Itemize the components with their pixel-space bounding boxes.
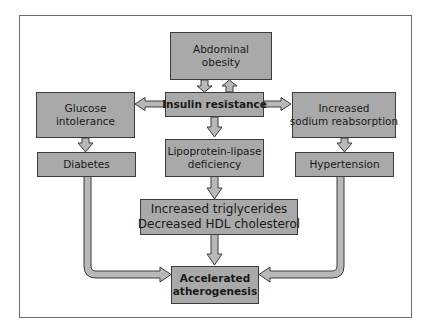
node-label: Glucose <box>65 102 107 115</box>
node-lipids: Increased triglycerides Decreased HDL ch… <box>140 199 298 235</box>
node-insulin-resistance: Insulin resistance <box>165 92 264 117</box>
node-label: Accelerated <box>180 272 250 285</box>
node-label: Diabetes <box>63 158 110 171</box>
node-label: atherogenesis <box>173 285 257 298</box>
node-label: Hypertension <box>309 158 379 171</box>
node-label: intolerance <box>56 115 115 128</box>
node-label: Decreased HDL cholesterol <box>138 217 300 232</box>
arrow-left-icon <box>135 98 165 111</box>
node-label: Lipoprotein-lipase <box>168 145 262 158</box>
node-glucose-intolerance: Glucose intolerance <box>36 92 135 138</box>
node-label: obesity <box>202 56 240 69</box>
node-atherogenesis: Accelerated atherogenesis <box>171 266 259 304</box>
arrow-up-icon <box>222 80 237 92</box>
node-sodium-reabsorption: Increased sodium reabsorption <box>292 92 396 138</box>
node-label: sodium reabsorption <box>290 115 398 128</box>
arrow-right-icon <box>264 98 291 111</box>
node-hypertension: Hypertension <box>295 152 394 177</box>
arrow-down-icon <box>337 138 352 152</box>
arrow-down-icon <box>197 80 212 92</box>
node-label: Increased <box>318 102 369 115</box>
node-label: deficiency <box>188 158 242 171</box>
node-diabetes: Diabetes <box>37 152 136 177</box>
node-label: Insulin resistance <box>162 98 267 111</box>
arrow-down-icon <box>78 138 93 152</box>
node-lipoprotein-lipase: Lipoprotein-lipase deficiency <box>165 139 264 177</box>
arrow-down-icon <box>207 176 222 199</box>
node-label: Abdominal <box>193 43 249 56</box>
arrow-down-icon <box>207 234 222 265</box>
arrow-down-icon <box>207 117 222 137</box>
node-abdominal-obesity: Abdominal obesity <box>170 32 272 80</box>
node-label: Increased triglycerides <box>151 202 288 217</box>
